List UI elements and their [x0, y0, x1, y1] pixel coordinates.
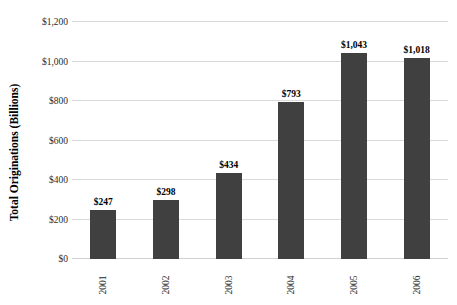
bar-value-label: $1,043	[341, 40, 367, 50]
bar-slot: $1,018	[385, 22, 448, 259]
x-axis-tick-label: 2004	[286, 267, 296, 303]
bar[interactable]	[90, 210, 116, 259]
y-axis-tick-label: $600	[6, 136, 68, 146]
y-axis-tick-label: $400	[6, 175, 68, 185]
x-slot: 2003	[197, 262, 260, 305]
x-axis-tick-label: 2005	[349, 267, 359, 303]
x-axis-tick-labels: 200120022003200420052006	[72, 262, 448, 305]
bar[interactable]	[278, 102, 304, 259]
bar-value-label: $1,018	[404, 45, 430, 55]
bar-slot: $793	[260, 22, 323, 259]
y-axis-tick-labels: $0$200$400$600$800$1,000$1,200	[0, 22, 68, 259]
bar-value-label: $247	[94, 197, 113, 207]
bar[interactable]	[153, 200, 179, 259]
x-axis-tick-label: 2006	[412, 267, 422, 303]
x-axis-tick-label: 2002	[161, 267, 171, 303]
y-axis-tick-label: $1,200	[6, 17, 68, 27]
bar[interactable]	[216, 173, 242, 259]
y-axis-tick-label: $800	[6, 96, 68, 106]
y-axis-tick-label: $1,000	[6, 57, 68, 67]
bar-value-label: $434	[219, 160, 238, 170]
bar-slot: $434	[197, 22, 260, 259]
x-slot: 2006	[385, 262, 448, 305]
bar[interactable]	[404, 58, 430, 259]
plot-area: $247$298$434$793$1,043$1,018	[72, 22, 448, 259]
x-slot: 2005	[323, 262, 386, 305]
bar-value-label: $793	[282, 89, 301, 99]
bar-slot: $247	[72, 22, 135, 259]
y-axis-tick-label: $200	[6, 215, 68, 225]
bar-slot: $298	[135, 22, 198, 259]
x-slot: 2001	[72, 262, 135, 305]
x-slot: 2002	[135, 262, 198, 305]
bar-chart: Total Originations (Billions) $0$200$400…	[0, 0, 457, 305]
x-slot: 2004	[260, 262, 323, 305]
bar-value-label: $298	[156, 187, 175, 197]
x-axis-tick-label: 2003	[224, 267, 234, 303]
bar-slot: $1,043	[323, 22, 386, 259]
bar[interactable]	[341, 53, 367, 259]
x-axis-tick-label: 2001	[98, 267, 108, 303]
y-axis-tick-label: $0	[6, 254, 68, 264]
